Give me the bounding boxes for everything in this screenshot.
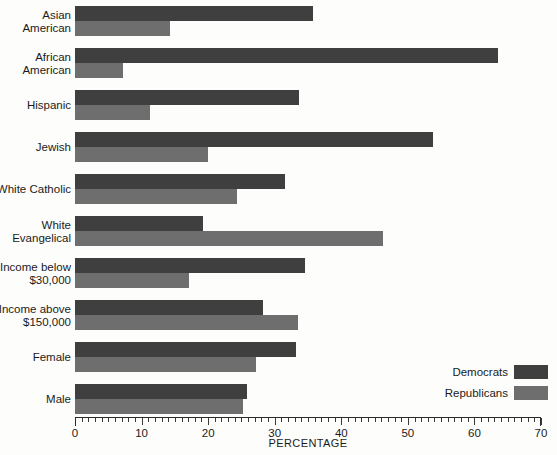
legend-label: Democrats [452, 366, 508, 378]
axis-tick-minor [454, 418, 455, 422]
axis-tick-minor [315, 418, 316, 422]
bar-republicans [75, 63, 123, 78]
bar-group: Hispanic [0, 84, 557, 126]
axis-tick-minor [241, 418, 242, 422]
x-axis-title: PERCENTAGE [75, 437, 541, 449]
axis-tick-minor [235, 418, 236, 422]
bar-pair [75, 258, 541, 288]
axis-tick-minor [355, 418, 356, 422]
axis-tick-minor [195, 418, 196, 422]
axis-tick-minor [182, 418, 183, 422]
bar-democrats [75, 216, 203, 231]
axis-tick-minor [95, 418, 96, 422]
bar-democrats [75, 174, 285, 189]
axis-tick-minor [215, 418, 216, 422]
bar-pair [75, 216, 541, 246]
axis-tick-minor [468, 418, 469, 422]
bar-group: Jewish [0, 126, 557, 168]
axis-tick-minor [188, 418, 189, 422]
bar-democrats [75, 342, 296, 357]
bar-republicans [75, 105, 150, 120]
axis-tick-major [208, 418, 209, 425]
category-label: African American [0, 51, 71, 76]
category-label: Hispanic [0, 99, 71, 112]
axis-tick-minor [335, 418, 336, 422]
axis-tick-minor [128, 418, 129, 422]
bar-pair [75, 300, 541, 330]
legend-item: Democrats [436, 363, 548, 381]
bar-group: African American [0, 42, 557, 84]
legend-swatch [514, 386, 548, 400]
bar-pair [75, 174, 541, 204]
bar-pair [75, 90, 541, 120]
axis-tick-minor [301, 418, 302, 422]
bar-republicans [75, 357, 256, 372]
axis-endcap [75, 417, 76, 426]
axis-tick-major [474, 418, 475, 425]
axis-tick-major [275, 418, 276, 425]
axis-tick-minor [348, 418, 349, 422]
axis-tick-minor [528, 418, 529, 422]
axis-tick-minor [261, 418, 262, 422]
category-label: Female [0, 351, 71, 364]
bar-democrats [75, 90, 299, 105]
axis-tick-minor [395, 418, 396, 422]
bar-democrats [75, 258, 305, 273]
axis-tick-minor [148, 418, 149, 422]
bar-pair [75, 48, 541, 78]
axis-tick-minor [534, 418, 535, 422]
axis-tick-minor [162, 418, 163, 422]
axis-endcap [540, 417, 541, 426]
axis-tick-minor [434, 418, 435, 422]
legend-item: Republicans [436, 384, 548, 402]
axis-tick-minor [508, 418, 509, 422]
axis-tick-minor [514, 418, 515, 422]
category-label: White Evangelical [0, 219, 71, 244]
axis-tick-minor [108, 418, 109, 422]
bar-pair [75, 132, 541, 162]
axis-tick-major [541, 418, 542, 425]
axis-tick-minor [388, 418, 389, 422]
bar-group: Income below $30,000 [0, 252, 557, 294]
axis-tick-minor [228, 418, 229, 422]
axis-tick-minor [295, 418, 296, 422]
bar-group: White Catholic [0, 168, 557, 210]
axis-tick-minor [401, 418, 402, 422]
category-label: Asian American [0, 9, 71, 34]
axis-tick-minor [494, 418, 495, 422]
bar-republicans [75, 189, 237, 204]
bar-democrats [75, 300, 263, 315]
axis-tick-minor [255, 418, 256, 422]
axis-tick-minor [248, 418, 249, 422]
bar-democrats [75, 48, 498, 63]
axis-tick-major [142, 418, 143, 425]
axis-tick-minor [201, 418, 202, 422]
axis-tick-minor [428, 418, 429, 422]
axis-tick-minor [448, 418, 449, 422]
axis-tick-minor [115, 418, 116, 422]
axis-tick-major [341, 418, 342, 425]
axis-tick-minor [268, 418, 269, 422]
category-label: Jewish [0, 141, 71, 154]
category-label: Male [0, 393, 71, 406]
category-label: Income below $30,000 [0, 261, 71, 286]
axis-tick-minor [488, 418, 489, 422]
axis-tick-minor [415, 418, 416, 422]
axis-tick-minor [361, 418, 362, 422]
axis-tick-minor [122, 418, 123, 422]
category-label: White Catholic [0, 183, 71, 196]
axis-tick-minor [481, 418, 482, 422]
axis-tick-minor [421, 418, 422, 422]
axis-tick-minor [221, 418, 222, 422]
axis-tick-minor [441, 418, 442, 422]
chart-legend: DemocratsRepublicans [436, 363, 548, 405]
bar-republicans [75, 231, 383, 246]
axis-tick-minor [281, 418, 282, 422]
bar-group: Income above $150,000 [0, 294, 557, 336]
axis-tick-minor [501, 418, 502, 422]
bar-republicans [75, 315, 298, 330]
legend-swatch [514, 365, 548, 379]
axis-tick-minor [328, 418, 329, 422]
axis-tick-minor [88, 418, 89, 422]
axis-tick-minor [102, 418, 103, 422]
